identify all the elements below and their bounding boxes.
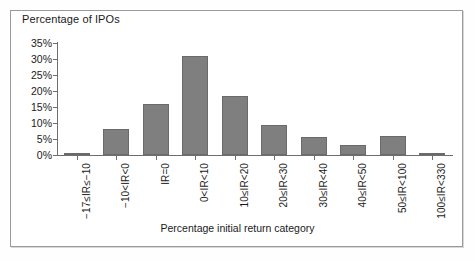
x-axis-title: Percentage initial return category [0,222,475,234]
bar [64,153,90,155]
x-tick-mark [353,156,354,160]
y-tick-mark [53,123,57,124]
x-tick-label: 0<IR<10 [199,163,210,202]
screenshot-root: Percentage of IPOs 0%5%10%15%20%25%30%35… [0,0,475,261]
x-tick-label: 10≤IR<20 [239,163,250,207]
bar [143,104,169,155]
y-tick-mark [53,139,57,140]
y-tick-label: 30% [26,53,52,65]
y-tick-label: 10% [26,117,52,129]
y-tick-label: 35% [26,37,52,49]
bar [419,153,445,155]
x-tick-mark [195,156,196,160]
bar [103,129,129,155]
x-tick-label: 50≤IR<100 [397,163,408,213]
bar [182,56,208,155]
x-tick-label: 100≤IR<330 [436,163,447,219]
x-tick-mark [235,156,236,160]
y-tick-label: 20% [26,85,52,97]
y-tick-label: 0% [26,149,52,161]
x-tick-mark [274,156,275,160]
y-tick-mark [53,155,57,156]
x-tick-mark [432,156,433,160]
y-tick-label: 15% [26,101,52,113]
x-tick-label: 20≤IR<30 [278,163,289,207]
y-tick-mark [53,75,57,76]
x-tick-mark [314,156,315,160]
bar [261,125,287,155]
bar [301,137,327,155]
x-tick-label: 30≤IR<40 [318,163,329,207]
y-tick-mark [53,43,57,44]
x-tick-mark [77,156,78,160]
bar [222,96,248,155]
x-tick-label: −17≤IR≤−10 [81,163,92,219]
x-tick-mark [393,156,394,160]
y-axis-line [57,42,58,156]
y-tick-label: 5% [26,133,52,145]
y-tick-mark [53,59,57,60]
y-tick-mark [53,107,57,108]
x-tick-label: 40≤IR<50 [357,163,368,207]
x-tick-label: IR=0 [160,163,171,185]
y-tick-mark [53,91,57,92]
x-tick-mark [116,156,117,160]
y-tick-label: 25% [26,69,52,81]
x-tick-mark [156,156,157,160]
bar [340,145,366,155]
bar [380,136,406,155]
x-tick-label: −10<IR<0 [120,163,131,208]
